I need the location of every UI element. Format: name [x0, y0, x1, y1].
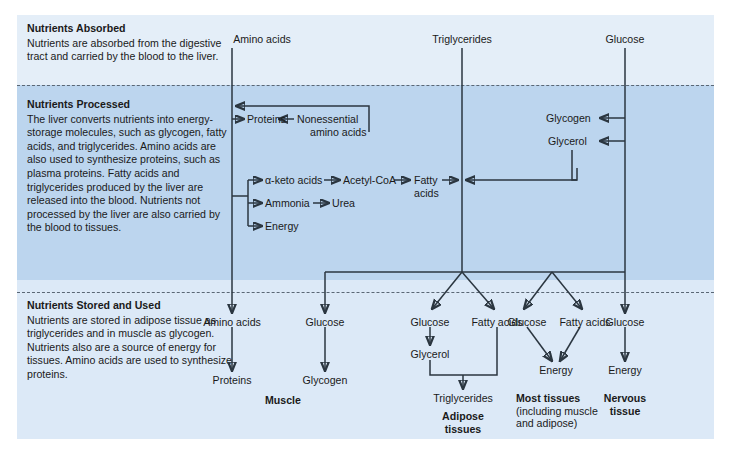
node-glucose-most-tissues: Glucose [508, 316, 547, 328]
node-urea: Urea [332, 197, 355, 209]
node-energy-liver: Energy [265, 220, 299, 232]
node-glucose-muscle: Glucose [306, 316, 345, 328]
node-alpha-keto-acids: α-keto acids [265, 174, 322, 186]
blurb-stored-body: Nutrients are stored in adipose tissue a… [27, 314, 232, 380]
blurb-processed-body: The liver converts nutrients into energy… [27, 113, 227, 234]
node-acetyl-coa: Acetyl-CoA [343, 174, 396, 186]
node-glycerol-liver: Glycerol [548, 135, 587, 147]
node-triglycerides-adipose: Triglycerides [433, 392, 493, 404]
blurb-absorbed: Nutrients Absorbed Nutrients are absorbe… [27, 22, 233, 64]
blurb-stored-heading: Nutrients Stored and Used [27, 299, 233, 313]
node-glucose-adipose: Glucose [411, 316, 450, 328]
blurb-processed: Nutrients Processed The liver converts n… [27, 98, 233, 235]
node-amino-acids-muscle: Amino acids [203, 316, 261, 328]
group-title-adipose-line2: tissues [445, 423, 482, 435]
divider-processed-stored [17, 292, 714, 293]
node-ammonia: Ammonia [265, 197, 310, 209]
node-glucose-input: Glucose [606, 33, 645, 45]
node-glycerol-adipose: Glycerol [411, 348, 450, 360]
group-title-adipose-line1: Adipose [442, 410, 484, 422]
group-title-muscle: Muscle [265, 394, 301, 406]
blurb-absorbed-body: Nutrients are absorbed from the digestiv… [27, 37, 221, 63]
divider-absorbed-processed [17, 85, 714, 86]
blurb-processed-heading: Nutrients Processed [27, 98, 233, 112]
nutrient-metabolism-figure: Nutrients Absorbed Nutrients are absorbe… [0, 0, 730, 451]
group-title-nervous-line1: Nervous [604, 392, 646, 404]
node-triglycerides-input: Triglycerides [432, 33, 492, 45]
blurb-absorbed-heading: Nutrients Absorbed [27, 22, 233, 36]
node-energy-most-tissues: Energy [539, 364, 573, 376]
node-nonessential-amino-acids-line2: amino acids [310, 126, 367, 138]
node-proteins-liver: Proteins [247, 113, 286, 125]
group-title-nervous-line2: tissue [610, 405, 641, 417]
node-fatty-acids-most-tissues: Fatty acids [559, 316, 610, 328]
node-energy-nervous: Energy [608, 364, 642, 376]
node-proteins-muscle: Proteins [213, 374, 252, 386]
node-fatty-acids-liver-line1: Fatty [414, 174, 438, 186]
node-glycogen-liver: Glycogen [546, 112, 591, 124]
blurb-stored: Nutrients Stored and Used Nutrients are … [27, 299, 233, 382]
group-subtitle-most-tissues: (including muscle and adipose) [516, 405, 614, 430]
node-amino-acids-input: Amino acids [233, 33, 291, 45]
node-glucose-nervous: Glucose [606, 316, 645, 328]
node-nonessential-amino-acids-line1: Nonessential [297, 113, 358, 125]
node-fatty-acids-liver-line2: acids [414, 187, 439, 199]
node-glycogen-muscle: Glycogen [303, 374, 348, 386]
group-title-most-tissues: Most tissues [516, 392, 580, 404]
